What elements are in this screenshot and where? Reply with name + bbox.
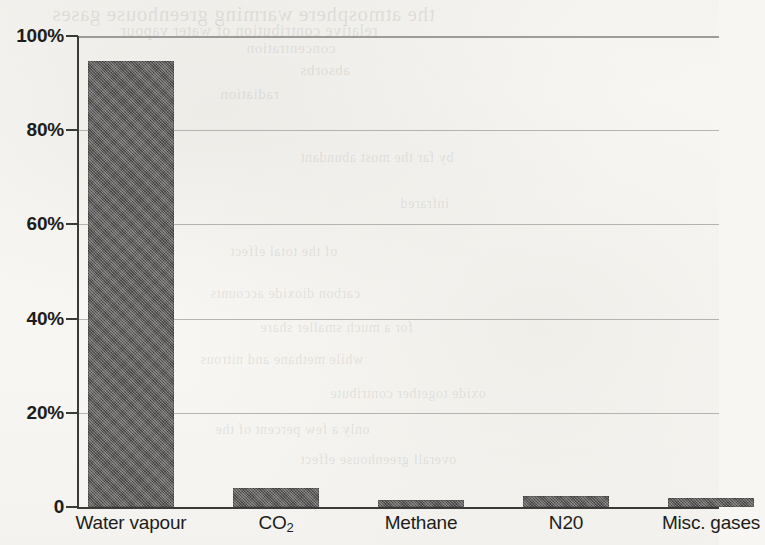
y-tick-80% xyxy=(66,129,78,131)
y-axis-label-slot: 60% xyxy=(0,214,64,233)
x-axis-baseline xyxy=(77,507,719,509)
x-axis-label-misc-gases: Misc. gases xyxy=(621,513,765,534)
bar-misc-gases xyxy=(668,498,754,507)
y-tick-40% xyxy=(66,318,78,320)
y-axis-label-slot: 80% xyxy=(0,120,64,139)
bar-co2 xyxy=(233,488,319,507)
plot-area xyxy=(79,36,719,507)
y-axis-label-slot: 100% xyxy=(0,26,64,45)
y-axis-label: 40% xyxy=(0,309,64,328)
bar-n20 xyxy=(523,496,609,507)
bar-methane xyxy=(378,500,464,507)
gridline-20 xyxy=(79,413,719,414)
y-tick-60% xyxy=(66,223,78,225)
y-axis-label: 80% xyxy=(0,120,64,139)
y-axis-label: 100% xyxy=(0,26,64,45)
gridline-60 xyxy=(79,224,719,225)
y-axis-label: 20% xyxy=(0,403,64,422)
gridline-80 xyxy=(79,130,719,131)
y-tick-100% xyxy=(66,35,78,37)
bar-water-vapour xyxy=(88,61,174,507)
y-axis-label-slot: 40% xyxy=(0,309,64,328)
y-axis-label-slot: 20% xyxy=(0,403,64,422)
y-tick-20% xyxy=(66,412,78,414)
gridline-40 xyxy=(79,319,719,320)
gridline-100 xyxy=(79,36,719,38)
y-axis-line xyxy=(77,36,79,509)
y-axis-label: 60% xyxy=(0,214,64,233)
